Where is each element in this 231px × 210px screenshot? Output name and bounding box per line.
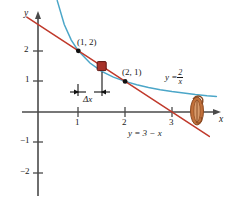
graph-svg xyxy=(0,0,231,210)
x-tick-label-3: 3 xyxy=(169,118,174,127)
point-label-1-2: (1, 2) xyxy=(77,38,97,47)
y-tick-label-1: 1 xyxy=(25,75,30,84)
point-2-1-dot xyxy=(123,79,128,84)
curve-y-equals-2-over-x xyxy=(57,1,216,97)
curve-equation-lhs: y = xyxy=(165,72,177,82)
point-label-2-1: (2, 1) xyxy=(122,68,142,77)
curve-equation-fraction: 2x xyxy=(177,69,183,86)
orange-smudge-artifact xyxy=(191,96,204,125)
x-axis-label: x xyxy=(219,115,223,125)
figure-canvas: y x 2 1 −1 −2 1 2 3 (1, 2) (2, 1) Δx y =… xyxy=(0,0,231,210)
curve-equation-denominator: x xyxy=(177,77,183,86)
secant-midpoint-marker xyxy=(97,62,106,71)
curve-equation-label: y =2x xyxy=(165,69,183,86)
y-axis xyxy=(35,11,41,196)
x-tick-label-2: 2 xyxy=(122,118,127,127)
y-axis-label: y xyxy=(24,9,28,19)
delta-x-bracket xyxy=(70,72,110,96)
delta-x-label: Δx xyxy=(83,95,92,104)
y-tick-label-neg1: −1 xyxy=(20,136,30,145)
y-tick-label-neg2: −2 xyxy=(20,167,30,176)
point-1-2-dot xyxy=(76,48,81,53)
x-tick-label-1: 1 xyxy=(75,118,80,127)
x-axis xyxy=(22,109,221,115)
curve-equation-numerator: 2 xyxy=(177,69,183,77)
line-equation-label: y = 3 − x xyxy=(128,129,162,138)
y-tick-label-2: 2 xyxy=(24,45,29,54)
